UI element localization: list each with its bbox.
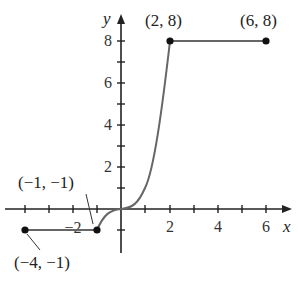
y-tick-label: 4 [104, 116, 112, 133]
x-tick-label: 6 [262, 218, 270, 235]
y-axis-label: y [101, 9, 111, 28]
graph-curve [25, 41, 266, 230]
point-marker [21, 226, 28, 233]
y-tick-label: 6 [104, 74, 112, 91]
point-marker [166, 37, 173, 44]
function-graph: −2 2 4 6 2 4 6 8 x y (−4, −1) (−1, −1) (… [0, 0, 298, 287]
y-tick-label: 2 [104, 158, 112, 175]
point-label: (−4, −1) [14, 253, 70, 272]
x-tick-label: 4 [214, 218, 222, 235]
x-axis-label: x [282, 217, 291, 236]
point-marker [93, 226, 100, 233]
y-axis-arrow-icon [117, 14, 125, 24]
point-label: (6, 8) [240, 11, 277, 30]
point-label: (−1, −1) [18, 173, 74, 192]
y-tick-label: 8 [104, 32, 112, 49]
x-tick-label: 2 [166, 218, 174, 235]
x-axis-arrow-icon [282, 205, 292, 213]
x-tick-label: −2 [64, 219, 81, 236]
point-label: (2, 8) [145, 11, 182, 30]
leader-line [27, 234, 40, 250]
point-marker [262, 37, 269, 44]
